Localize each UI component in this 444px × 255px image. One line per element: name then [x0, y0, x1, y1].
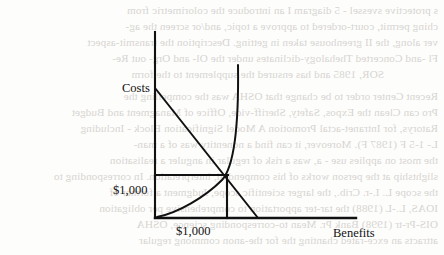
- y-axis-value-label: $1,000: [113, 183, 147, 198]
- benefits-axis-label: Benefits: [333, 226, 375, 241]
- costs-axis-label: Costs: [122, 81, 150, 96]
- x-axis-value-label: $1,000: [176, 224, 210, 239]
- costs-declining-line: [155, 88, 258, 218]
- figure-page: s protective svessel - 5 diagram I an in…: [0, 0, 444, 255]
- cost-benefit-graph: [0, 0, 444, 255]
